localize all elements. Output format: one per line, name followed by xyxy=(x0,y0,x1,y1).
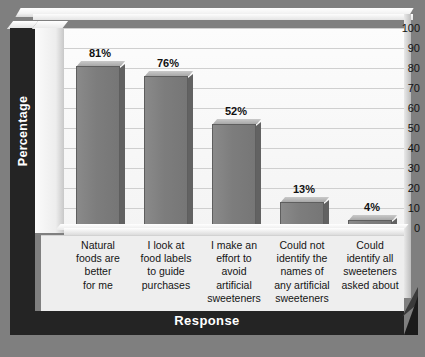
bar-top-face-3d xyxy=(213,119,261,124)
bar-value-label: 4% xyxy=(364,201,380,213)
y-axis-tick-label: 70 xyxy=(392,82,420,94)
x-axis-category-label: Could identify all sweeteners asked abou… xyxy=(336,239,404,292)
chart-screenshot: Percentage Natural foods are better for … xyxy=(0,0,425,357)
category-label-panel: Natural foods are better for meI look at… xyxy=(41,235,404,312)
x-axis-category-label: I look at food labels to guide purchases xyxy=(132,239,200,292)
y-axis-tick-label: 90 xyxy=(392,42,420,54)
plot-area xyxy=(64,28,404,228)
y-axis-tick-label: 80 xyxy=(392,62,420,74)
bar-side-face-3d xyxy=(120,64,125,230)
x-axis-category-label: Natural foods are better for me xyxy=(64,239,132,292)
y-axis-tick-label: 30 xyxy=(392,162,420,174)
bar xyxy=(76,66,120,228)
y-axis-tick-label: 40 xyxy=(392,142,420,154)
x-axis-category-label: Could not identify the names of any arti… xyxy=(268,239,336,305)
frame-right-edge-3d xyxy=(404,14,411,298)
bar-top-face-3d xyxy=(77,61,125,66)
y-axis-title-band: Percentage xyxy=(10,28,35,335)
bar-value-label: 13% xyxy=(293,183,315,195)
frame-top-ledge-cap xyxy=(33,14,413,20)
y-axis-tick-label: 60 xyxy=(392,102,420,114)
bar xyxy=(212,124,256,228)
y-axis-tick-label: 0 xyxy=(392,222,420,234)
bar-side-face-3d xyxy=(188,74,193,230)
bar-value-label: 52% xyxy=(225,105,247,117)
x-axis-category-label: I make an effort to avoid artificial swe… xyxy=(200,239,268,305)
bar-top-face-3d xyxy=(281,197,329,202)
bar-top-face-3d xyxy=(349,215,397,220)
x-axis-title: Response xyxy=(10,313,404,328)
gridline xyxy=(64,28,404,29)
bar-top-face-3d xyxy=(145,71,193,76)
y-axis-tick-label: 100 xyxy=(392,22,420,34)
bar-value-label: 76% xyxy=(157,57,179,69)
y-axis-title: Percentage xyxy=(16,76,30,186)
y-axis-tick-label: 20 xyxy=(392,182,420,194)
bar xyxy=(144,76,188,228)
y-axis-tick-strip xyxy=(35,28,65,233)
gridline xyxy=(64,48,404,49)
bar-value-label: 81% xyxy=(89,47,111,59)
bar-side-face-3d xyxy=(256,122,261,230)
y-axis-tick-label: 10 xyxy=(392,202,420,214)
x-axis-baseline xyxy=(64,228,404,235)
y-axis-tick-label: 50 xyxy=(392,122,420,134)
